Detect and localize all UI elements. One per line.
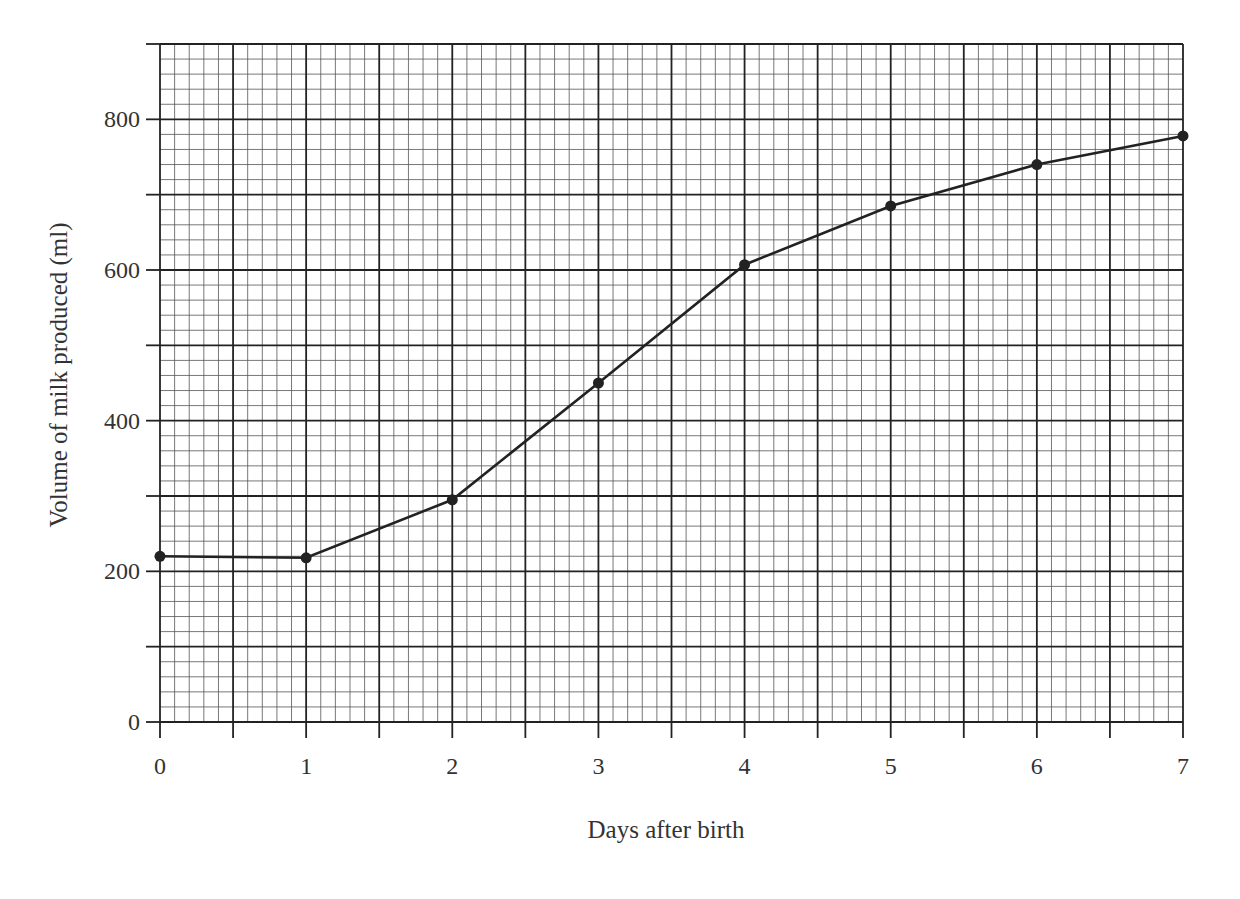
axis-ticks <box>146 44 1183 738</box>
x-axis-tick-labels: 01234567 <box>154 753 1189 779</box>
y-axis-title: Volume of milk produced (ml) <box>45 222 73 527</box>
y-tick-label: 200 <box>104 558 140 584</box>
data-point <box>1178 130 1189 141</box>
data-point <box>301 552 312 563</box>
data-point <box>739 259 750 270</box>
x-axis-title: Days after birth <box>588 816 745 843</box>
x-tick-label: 3 <box>592 753 604 779</box>
data-point <box>1031 159 1042 170</box>
y-tick-label: 600 <box>104 257 140 283</box>
grid-major <box>160 44 1183 722</box>
y-tick-label: 800 <box>104 106 140 132</box>
data-point <box>885 200 896 211</box>
data-point <box>447 494 458 505</box>
x-tick-label: 1 <box>300 753 312 779</box>
x-tick-label: 5 <box>885 753 897 779</box>
y-axis-tick-labels: 0200400600800 <box>104 106 140 735</box>
data-point <box>593 378 604 389</box>
x-tick-label: 0 <box>154 753 166 779</box>
x-tick-label: 6 <box>1031 753 1043 779</box>
x-tick-label: 4 <box>739 753 751 779</box>
y-tick-label: 400 <box>104 408 140 434</box>
data-point <box>155 551 166 562</box>
x-tick-label: 2 <box>446 753 458 779</box>
y-tick-label: 0 <box>128 709 140 735</box>
x-tick-label: 7 <box>1177 753 1189 779</box>
line-chart: 01234567 0200400600800 Days after birth … <box>0 0 1240 899</box>
